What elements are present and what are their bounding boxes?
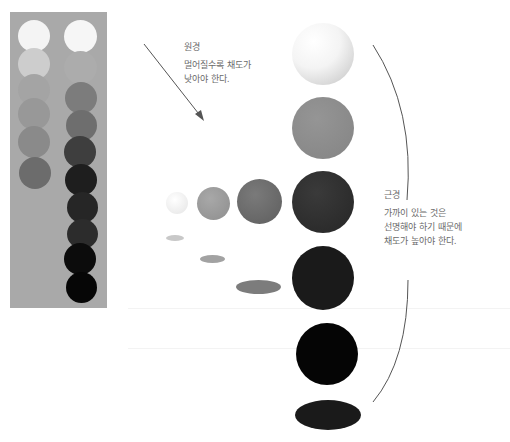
shadow-medium <box>200 255 225 263</box>
shadow-largest <box>295 400 361 430</box>
sphere-large-2 <box>292 97 354 159</box>
swatch-right-2 <box>64 51 97 84</box>
sphere-large-4 <box>292 246 354 310</box>
sphere-small <box>166 192 188 214</box>
swatch-left-6 <box>19 157 51 189</box>
far-line-1: 멀어질수록 채도가 <box>184 58 251 72</box>
far-title: 원경 <box>184 40 251 54</box>
sphere-medium-large <box>237 179 282 224</box>
sphere-medium <box>197 187 230 220</box>
sphere-large-3 <box>292 171 354 233</box>
near-label: 근경 가까이 있는 것은 선명해야 하기 때문에 채도가 높아야 한다. <box>384 188 462 248</box>
swatch-right-1 <box>64 20 97 53</box>
far-line-2: 낮아야 한다. <box>184 72 251 86</box>
near-title: 근경 <box>384 188 462 202</box>
swatch-right-9 <box>64 243 96 275</box>
swatch-left-5 <box>18 126 50 158</box>
sphere-large-1 <box>292 23 354 85</box>
swatch-right-10 <box>66 272 97 303</box>
near-line-1: 가까이 있는 것은 <box>384 206 462 220</box>
shadow-large <box>236 280 281 294</box>
far-label: 원경 멀어질수록 채도가 낮아야 한다. <box>184 40 251 86</box>
near-line-2: 선명해야 하기 때문에 <box>384 220 462 234</box>
shadow-small <box>166 235 184 241</box>
near-line-3: 채도가 높아야 한다. <box>384 234 462 248</box>
sphere-large-5 <box>296 323 358 385</box>
swatch-panel <box>10 12 107 308</box>
